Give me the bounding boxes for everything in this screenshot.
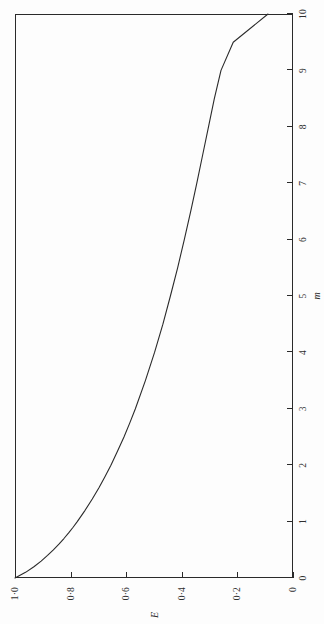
y-tick-label: 0·2 (232, 587, 242, 600)
x-tick-mark (287, 351, 293, 352)
x-tick-label: 2 (298, 463, 308, 468)
x-tick-mark (287, 69, 293, 70)
x-tick-mark (287, 239, 293, 240)
plot-area: 012345678910 00·20·40·60·81·0 m E (15, 14, 293, 578)
x-axis-title: m (311, 292, 322, 299)
x-tick-label: 4 (298, 350, 308, 355)
x-tick-label: 7 (298, 181, 308, 186)
x-tick-label: 8 (298, 124, 308, 129)
y-tick-label: 1·0 (10, 587, 20, 600)
y-tick-label: 0·6 (121, 587, 131, 600)
y-tick-label: 0·8 (66, 587, 76, 600)
x-tick-mark (287, 13, 293, 14)
y-tick-label: 0 (288, 587, 298, 592)
x-tick-mark (287, 408, 293, 409)
x-tick-mark (287, 464, 293, 465)
x-tick-label: 5 (298, 294, 308, 299)
y-tick-mark (293, 572, 294, 578)
x-tick-mark (287, 126, 293, 127)
y-axis-title: E (149, 612, 160, 618)
y-tick-mark (237, 572, 238, 578)
x-tick-label: 3 (298, 406, 308, 411)
y-tick-mark (182, 572, 183, 578)
curve-svg (15, 14, 293, 578)
x-tick-label: 1 (298, 519, 308, 524)
y-tick-label: 0·4 (177, 587, 187, 600)
y-tick-mark (15, 572, 16, 578)
rotated-page-stage: 012345678910 00·20·40·60·81·0 m E (0, 0, 324, 624)
x-tick-mark (287, 182, 293, 183)
x-tick-label: 0 (298, 576, 308, 581)
x-tick-label: 10 (298, 9, 308, 19)
x-tick-label: 6 (298, 237, 308, 242)
x-tick-label: 9 (298, 68, 308, 73)
figure-container: 012345678910 00·20·40·60·81·0 m E (0, 0, 324, 624)
data-curve-line (15, 14, 268, 578)
y-tick-mark (126, 572, 127, 578)
x-tick-mark (287, 521, 293, 522)
x-tick-mark (287, 295, 293, 296)
y-tick-mark (71, 572, 72, 578)
